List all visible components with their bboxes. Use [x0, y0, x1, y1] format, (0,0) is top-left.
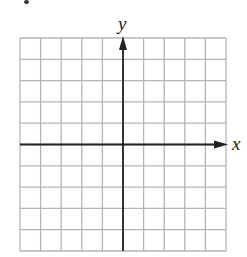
axes	[20, 36, 228, 251]
x-axis-label: x	[232, 134, 240, 153]
grid	[0, 0, 247, 257]
y-axis-label: y	[118, 14, 126, 33]
coordinate-plane: y x	[0, 0, 247, 257]
